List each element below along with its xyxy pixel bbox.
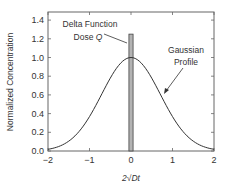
x-tick-label: 2 [211, 155, 216, 165]
gaussian-arrowhead [164, 88, 169, 94]
y-tick-label: 0.2 [31, 127, 44, 137]
x-tick-label: 0 [128, 155, 133, 165]
delta-annotation-line2: Dose Q [74, 32, 103, 42]
y-tick-label: 1.0 [31, 53, 44, 63]
y-tick-label: 1.2 [31, 34, 44, 44]
x-axis-label: 2√Dt [121, 173, 141, 183]
gaussian-arrow [166, 68, 183, 91]
gaussian-annotation-line1: Gaussian [168, 45, 204, 55]
delta-annotation: Delta Function Dose Q [63, 19, 127, 43]
delta-arrow [104, 34, 127, 43]
delta-function-bar [129, 34, 133, 151]
delta-annotation-line1: Delta Function [63, 19, 118, 29]
x-tick-label: 1 [170, 155, 175, 165]
y-tick-label: 0.4 [31, 109, 44, 119]
x-tick-label: −2 [43, 155, 53, 165]
y-tick-label: 1.4 [31, 15, 44, 25]
y-axis-label: Normalized Concentration [5, 33, 15, 132]
x-tick-label: −1 [84, 155, 94, 165]
chart: 0.00.20.40.60.81.01.21.4 −2−1012 Delta F… [0, 0, 225, 193]
y-tick-label: 0.8 [31, 71, 44, 81]
y-tick-label: 0.6 [31, 90, 44, 100]
gaussian-annotation: Gaussian Profile [164, 45, 204, 94]
gaussian-annotation-line2: Profile [174, 57, 198, 67]
